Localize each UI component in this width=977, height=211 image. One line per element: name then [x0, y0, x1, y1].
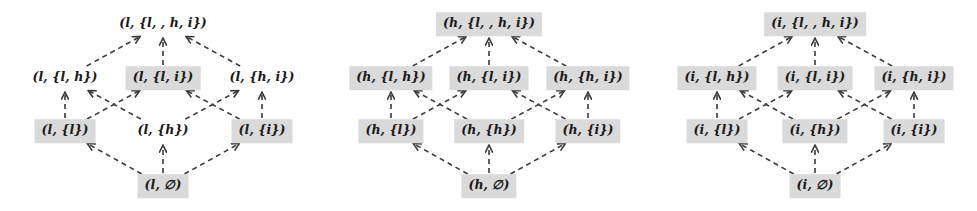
lattice-node-i-i: (i, {i}) [884, 119, 945, 143]
lattice-edge [739, 37, 792, 66]
lattice-edge [511, 91, 564, 119]
lattice-node-l-i: (l, {i}) [232, 119, 293, 143]
lattice-edge [87, 37, 140, 66]
lattice-node-l-li: (l, {l, i}) [126, 66, 201, 90]
lattice-node-l-bot: (l, ∅) [138, 174, 189, 198]
lattice-node-i-hi: (i, {h, i}) [875, 66, 954, 90]
lattice-panel-i: (i, {l, , h, i})(i, {l, h})(i, {l, i})(i… [652, 0, 977, 211]
lattice-node-h-l: (h, {l}) [358, 119, 423, 143]
lattice-node-h-lh: (h, {l, h}) [349, 66, 432, 90]
lattice-node-i-li: (i, {l, i}) [778, 66, 853, 90]
lattice-node-l-lh: (l, {l, h}) [26, 66, 105, 90]
lattice-edge [513, 37, 566, 66]
lattice-edge [739, 91, 791, 119]
lattice-edge [414, 144, 468, 174]
lattice-node-l-h: (l, {h}) [130, 119, 195, 143]
lattice-edge [187, 37, 240, 66]
lattice-node-i-bot: (i, ∅) [790, 174, 841, 198]
lattice-edge [839, 37, 892, 66]
lattice-node-h-top: (h, {l, , h, i}) [436, 12, 542, 36]
lattice-edge [185, 91, 238, 119]
lattice-edge [837, 91, 890, 119]
lattice-panel-h: (h, {l, , h, i})(h, {l, h})(h, {l, i})(h… [326, 0, 652, 211]
lattice-node-l-top: (l, {l, , h, i}) [112, 12, 214, 36]
lattice-node-i-top: (i, {l, , h, i}) [764, 12, 866, 36]
lattice-node-h-h: (h, {h}) [454, 119, 524, 143]
lattice-edge [88, 144, 142, 174]
lattice-edge [513, 91, 566, 119]
lattice-edge [87, 91, 139, 119]
lattice-node-i-l: (i, {l}) [687, 119, 748, 143]
lattice-node-h-bot: (h, ∅) [461, 174, 516, 198]
lattice-edge [413, 91, 465, 119]
lattice-edge [413, 37, 466, 66]
lattice-edge [837, 144, 891, 174]
lattice-node-h-hi: (h, {h, i}) [546, 66, 629, 90]
lattice-edge [89, 91, 141, 119]
lattice-edge [839, 91, 892, 119]
lattice-edge [185, 144, 239, 174]
lattice-edge [187, 91, 240, 119]
lattice-edge [415, 91, 467, 119]
lattice-node-i-h: (i, {h}) [782, 119, 847, 143]
lattice-edge [740, 144, 794, 174]
lattice-edge [511, 144, 565, 174]
lattice-panel-l: (l, {l, , h, i})(l, {l, h})(l, {l, i})(l… [0, 0, 326, 211]
lattice-node-h-i: (h, {i}) [555, 119, 620, 143]
hasse-diagram-figure: (l, {l, , h, i})(l, {l, h})(l, {l, i})(l… [0, 0, 977, 211]
lattice-node-h-li: (h, {l, i}) [450, 66, 529, 90]
lattice-node-l-hi: (l, {h, i}) [223, 66, 302, 90]
lattice-node-l-l: (l, {l}) [35, 119, 96, 143]
lattice-node-i-lh: (i, {l, h}) [678, 66, 757, 90]
lattice-edge [741, 91, 793, 119]
